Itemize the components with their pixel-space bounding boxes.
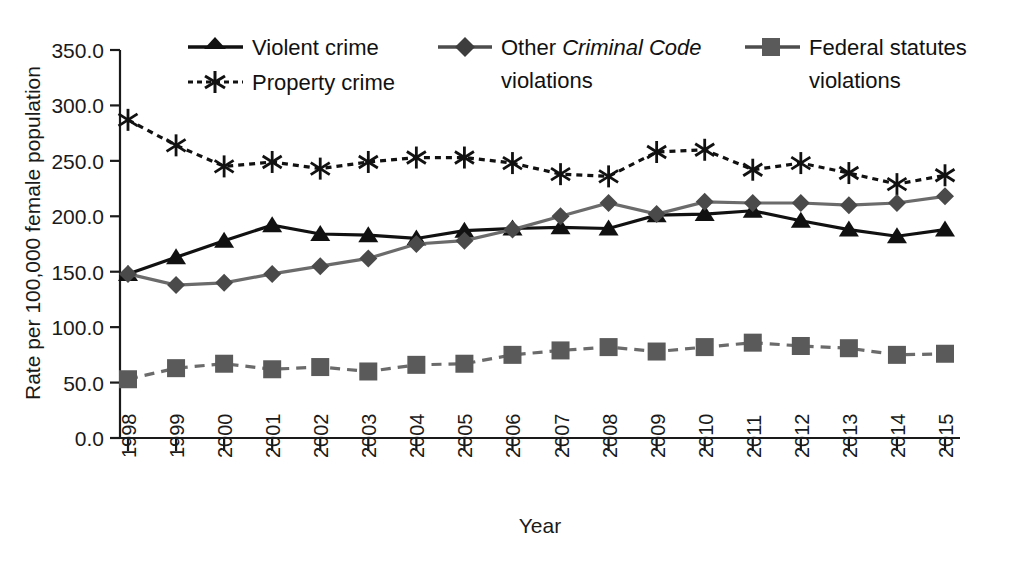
y-axis-tick-label: 350.0	[51, 39, 104, 62]
data-point-square	[311, 358, 329, 376]
y-axis-tick-label: 0.0	[75, 427, 104, 450]
x-axis-tick-label: 2008	[599, 414, 621, 459]
x-axis-tick-label: 2003	[358, 414, 380, 459]
data-point-square	[407, 356, 425, 374]
data-point-square	[455, 355, 473, 373]
y-axis-tick-label: 50.0	[63, 372, 104, 395]
data-point-square	[696, 338, 714, 356]
data-point-square	[792, 337, 810, 355]
y-axis-title: Rate per 100,000 female population	[21, 66, 44, 400]
x-axis-tick-label: 2011	[743, 415, 765, 458]
x-axis-tick-label: 2014	[887, 414, 909, 459]
chart-figure: Rate per 100,000 female population 0.050…	[0, 0, 1011, 561]
square-marker-icon	[762, 38, 780, 56]
legend-item-label-line2: violations	[809, 68, 901, 93]
y-axis-tick-label: 250.0	[51, 150, 104, 173]
legend-item-label: Violent crime	[252, 35, 379, 60]
x-axis-tick-label: 2009	[647, 414, 669, 459]
x-axis-tick-label: 2013	[839, 414, 861, 459]
data-point-square	[888, 346, 906, 364]
y-axis-tick-label: 200.0	[51, 205, 104, 228]
data-point-square	[600, 338, 618, 356]
x-axis-tick-label: 2007	[551, 414, 573, 459]
data-point-square	[648, 343, 666, 361]
x-axis-tick-label: 2005	[454, 414, 476, 459]
x-axis-tick-label: 1999	[166, 414, 188, 459]
x-axis-tick-label: 2001	[262, 414, 284, 459]
y-axis-tick-label: 100.0	[51, 316, 104, 339]
x-axis-tick-label: 2012	[791, 414, 813, 459]
x-axis-tick-label: 2002	[310, 414, 332, 459]
data-point-square	[263, 360, 281, 378]
data-point-square	[744, 334, 762, 352]
x-axis-tick-label: 2015	[935, 414, 957, 459]
x-axis-title: Year	[519, 514, 561, 537]
y-axis-tick-label: 150.0	[51, 261, 104, 284]
x-axis-tick-label: 1998	[118, 414, 140, 459]
data-point-square	[552, 341, 570, 359]
legend-item-label: Property crime	[252, 70, 395, 95]
x-axis-tick-label: 2000	[214, 414, 236, 459]
data-point-square	[119, 370, 137, 388]
legend-item-label: Federal statutes	[809, 35, 967, 60]
legend-item-label: Other Criminal Code	[501, 35, 702, 60]
x-axis-tick-label: 2010	[695, 414, 717, 459]
data-point-square	[167, 359, 185, 377]
legend-item-label-line2: violations	[501, 68, 593, 93]
line-chart: Rate per 100,000 female population 0.050…	[0, 0, 1011, 561]
data-point-square	[936, 345, 954, 363]
y-axis-tick-label: 300.0	[51, 94, 104, 117]
x-axis-tick-label: 2006	[502, 414, 524, 459]
data-point-square	[503, 346, 521, 364]
data-point-square	[215, 355, 233, 373]
data-point-square	[840, 339, 858, 357]
data-point-square	[359, 362, 377, 380]
x-axis-tick-label: 2004	[406, 414, 428, 459]
